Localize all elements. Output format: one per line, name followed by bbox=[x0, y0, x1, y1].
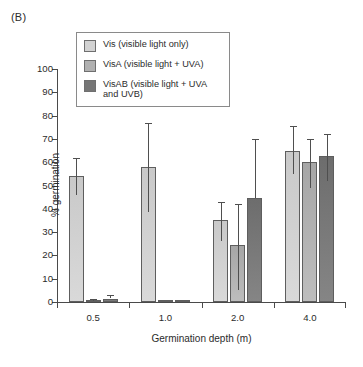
legend-item-visa: VisA (visible light + UVA) bbox=[84, 59, 222, 72]
error-bar bbox=[221, 202, 222, 242]
error-bar-cap-upper bbox=[90, 299, 97, 300]
error-bar bbox=[238, 204, 239, 290]
error-bar-cap-upper bbox=[307, 139, 314, 140]
x-tick-mark bbox=[345, 303, 346, 308]
bar-vis-0-5 bbox=[69, 176, 84, 302]
x-tick-mark bbox=[202, 303, 203, 308]
panel-label: (B) bbox=[11, 11, 26, 23]
legend-item-vis: Vis (visible light only) bbox=[84, 39, 222, 52]
x-tick-label: 0.5 bbox=[86, 312, 99, 323]
legend-swatch-icon bbox=[84, 60, 96, 72]
error-bar-cap-upper bbox=[73, 158, 80, 159]
legend-item-label: Vis (visible light only) bbox=[103, 39, 189, 49]
error-bar bbox=[148, 123, 149, 213]
legend-item-visab: VisAB (visible light + UVA and UVB) bbox=[84, 79, 222, 100]
y-tick-label: 90 bbox=[42, 86, 53, 97]
y-axis-label: % germination bbox=[50, 153, 61, 217]
x-tick-label: 4.0 bbox=[303, 312, 316, 323]
y-tick-label: 100 bbox=[37, 63, 53, 74]
legend-swatch-icon bbox=[84, 40, 96, 52]
y-tick-label: 0 bbox=[48, 296, 53, 307]
y-tick-label: 80 bbox=[42, 110, 53, 121]
x-tick-mark bbox=[274, 303, 275, 308]
x-tick-mark bbox=[129, 303, 130, 308]
chart-legend: Vis (visible light only)VisA (visible li… bbox=[76, 32, 230, 107]
figure-panel-b: (B) Vis (visible light only)VisA (visibl… bbox=[0, 0, 363, 367]
bar-visab-2-0 bbox=[247, 198, 262, 302]
error-bar-cap-upper bbox=[324, 134, 331, 135]
bar-visab-1-0 bbox=[175, 300, 190, 302]
error-bar bbox=[255, 139, 256, 198]
y-tick-label: 30 bbox=[42, 226, 53, 237]
legend-item-label: VisA (visible light + UVA) bbox=[103, 59, 204, 69]
y-tick-label: 20 bbox=[42, 249, 53, 260]
error-bar-cap-upper bbox=[235, 204, 242, 205]
x-tick-mark bbox=[57, 303, 58, 308]
legend-item-label: VisAB (visible light + UVA and UVB) bbox=[103, 79, 207, 100]
error-bar-cap-upper bbox=[218, 202, 225, 203]
bar-visab-0-5 bbox=[103, 299, 118, 302]
error-bar bbox=[293, 126, 294, 174]
legend-swatch-icon bbox=[84, 80, 96, 92]
bar-visa-1-0 bbox=[158, 300, 173, 302]
x-tick-label: 1.0 bbox=[159, 312, 172, 323]
y-tick-label: 70 bbox=[42, 133, 53, 144]
error-bar-cap-upper bbox=[145, 123, 152, 124]
error-bar-cap-upper bbox=[252, 139, 259, 140]
error-bar bbox=[76, 158, 77, 195]
x-axis-label: Germination depth (m) bbox=[57, 333, 346, 344]
error-bar bbox=[327, 134, 328, 181]
error-bar bbox=[310, 139, 311, 188]
x-tick-label: 2.0 bbox=[231, 312, 244, 323]
error-bar-cap-upper bbox=[290, 126, 297, 127]
y-tick-label: 10 bbox=[42, 273, 53, 284]
error-bar-cap-upper bbox=[107, 295, 114, 296]
